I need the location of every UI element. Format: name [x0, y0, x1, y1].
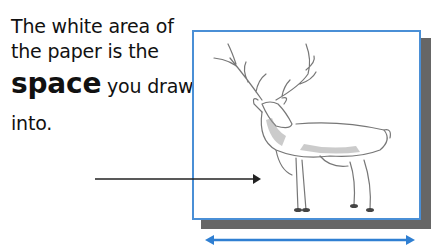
width-double-arrow-icon	[0, 0, 445, 252]
